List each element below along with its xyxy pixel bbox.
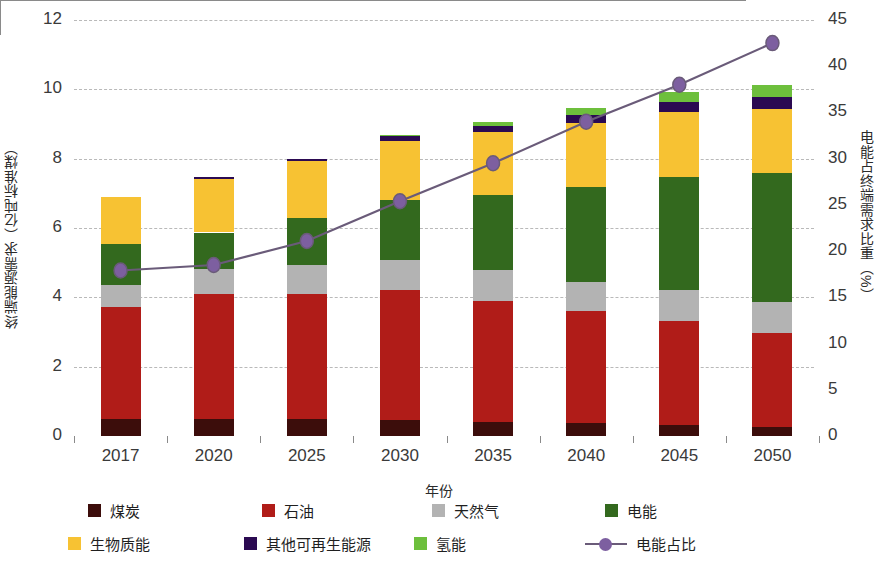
bar-segment[interactable] <box>380 260 420 291</box>
bar-stack[interactable] <box>659 20 699 436</box>
bar-stack[interactable] <box>287 20 327 436</box>
x-axis-tick-mark <box>726 436 727 443</box>
legend-swatch-icon <box>432 504 445 517</box>
bar-segment[interactable] <box>473 422 513 436</box>
bar-segment[interactable] <box>473 301 513 422</box>
bar-segment[interactable] <box>752 427 792 436</box>
bar-segment[interactable] <box>659 92 699 101</box>
y-axis-right-tick-label: 25 <box>828 194 864 214</box>
bar-stack[interactable] <box>194 20 234 436</box>
bar-segment[interactable] <box>380 420 420 436</box>
bar-stack[interactable] <box>752 20 792 436</box>
legend-item[interactable]: 煤炭 <box>88 500 140 521</box>
y-axis-right-tick-label: 30 <box>828 148 864 168</box>
bar-segment[interactable] <box>566 187 606 281</box>
legend-swatch-icon <box>414 537 427 550</box>
legend-line-marker-icon <box>585 537 627 550</box>
bar-segment[interactable] <box>194 269 234 294</box>
bar-segment[interactable] <box>752 97 792 109</box>
legend-swatch-icon <box>244 537 257 550</box>
bar-segment[interactable] <box>659 425 699 436</box>
y-axis-right-tick-label: 0 <box>828 425 864 445</box>
bar-segment[interactable] <box>566 123 606 187</box>
bar-stack[interactable] <box>380 20 420 436</box>
x-axis-tick-label: 2017 <box>86 446 156 466</box>
x-axis-tick-mark <box>540 436 541 443</box>
x-axis-tick-mark <box>260 436 261 443</box>
legend-item[interactable]: 氢能 <box>414 533 466 554</box>
x-axis-tick-mark <box>447 436 448 443</box>
bar-segment[interactable] <box>194 233 234 269</box>
y-axis-right-tick-label: 40 <box>828 55 864 75</box>
chart-container: 终端能源需求（亿吨标准煤） 电能占终端需求比重（%） 年份 024681012 … <box>0 0 878 572</box>
bar-segment[interactable] <box>101 197 141 244</box>
bar-segment[interactable] <box>101 307 141 419</box>
bar-segment[interactable] <box>101 419 141 436</box>
legend-item-label: 石油 <box>284 500 314 521</box>
bar-segment[interactable] <box>380 135 420 136</box>
bar-stack[interactable] <box>566 20 606 436</box>
y-axis-right-tick-label: 35 <box>828 101 864 121</box>
bar-segment[interactable] <box>194 179 234 233</box>
bar-segment[interactable] <box>566 423 606 436</box>
bar-segment[interactable] <box>380 136 420 140</box>
bar-segment[interactable] <box>473 126 513 132</box>
legend-item[interactable]: 天然气 <box>432 500 499 521</box>
bar-segment[interactable] <box>194 419 234 436</box>
bar-segment[interactable] <box>287 419 327 436</box>
bar-segment[interactable] <box>566 282 606 311</box>
bar-segment[interactable] <box>566 108 606 115</box>
x-axis-tick-label: 2035 <box>458 446 528 466</box>
bar-segment[interactable] <box>752 302 792 333</box>
bar-segment[interactable] <box>752 109 792 173</box>
bar-segment[interactable] <box>194 177 234 179</box>
bar-segment[interactable] <box>752 85 792 96</box>
bar-segment[interactable] <box>287 159 327 162</box>
legend-item-label: 其他可再生能源 <box>266 533 371 554</box>
bar-segment[interactable] <box>287 265 327 293</box>
bar-stack[interactable] <box>473 20 513 436</box>
gridline <box>74 159 814 160</box>
bar-segment[interactable] <box>659 290 699 321</box>
bar-segment[interactable] <box>194 294 234 419</box>
bar-segment[interactable] <box>473 195 513 271</box>
legend-item-label: 电能占比 <box>636 533 696 554</box>
bar-segment[interactable] <box>101 285 141 308</box>
x-axis-tick-mark <box>167 436 168 443</box>
bar-segment[interactable] <box>659 177 699 290</box>
bar-segment[interactable] <box>752 173 792 302</box>
bar-segment[interactable] <box>287 294 327 419</box>
legend-item-label: 电能 <box>627 500 657 521</box>
legend-item[interactable]: 石油 <box>262 500 314 521</box>
x-axis-tick-label: 2025 <box>272 446 342 466</box>
y-axis-left-title: 终端能源需求（亿吨标准煤） <box>2 140 22 329</box>
bar-segment[interactable] <box>380 290 420 420</box>
legend-row-2: 生物质能其他可再生能源氢能电能占比 <box>0 533 878 566</box>
y-axis-right-tick-label: 45 <box>828 9 864 29</box>
y-axis-left-tick-label: 4 <box>26 286 62 306</box>
legend-item-label: 天然气 <box>454 500 499 521</box>
bar-stack[interactable] <box>101 20 141 436</box>
x-axis-tick-mark <box>633 436 634 443</box>
bar-segment[interactable] <box>101 244 141 285</box>
bar-segment[interactable] <box>566 115 606 123</box>
y-axis-right-tick-label: 20 <box>828 240 864 260</box>
bar-segment[interactable] <box>473 270 513 301</box>
bar-segment[interactable] <box>473 132 513 195</box>
legend-item[interactable]: 电能占比 <box>585 533 696 554</box>
bar-segment[interactable] <box>659 102 699 112</box>
bar-segment[interactable] <box>287 161 327 217</box>
y-axis-left-tick-label: 2 <box>26 356 62 376</box>
legend-item[interactable]: 电能 <box>605 500 657 521</box>
bar-segment[interactable] <box>287 218 327 266</box>
bar-segment[interactable] <box>380 141 420 201</box>
bar-segment[interactable] <box>752 333 792 427</box>
legend: 煤炭石油天然气电能 生物质能其他可再生能源氢能电能占比 <box>0 500 878 566</box>
legend-item[interactable]: 生物质能 <box>68 533 150 554</box>
bar-segment[interactable] <box>659 112 699 177</box>
bar-segment[interactable] <box>473 122 513 126</box>
bar-segment[interactable] <box>380 200 420 260</box>
bar-segment[interactable] <box>659 321 699 425</box>
legend-item[interactable]: 其他可再生能源 <box>244 533 371 554</box>
bar-segment[interactable] <box>566 311 606 423</box>
